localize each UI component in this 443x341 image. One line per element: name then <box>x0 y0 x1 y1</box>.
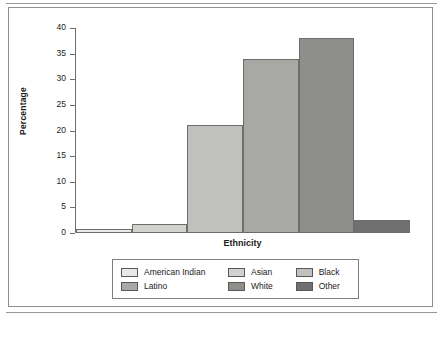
y-tick-mark <box>70 233 75 234</box>
legend-swatch-icon <box>121 282 138 291</box>
bar <box>132 224 188 233</box>
y-axis-title: Percentage <box>18 76 28 146</box>
y-tick-label: 0 <box>40 227 66 237</box>
legend-item-black: Black <box>296 267 352 277</box>
bar <box>187 125 243 233</box>
y-tick-label: 10 <box>40 176 66 186</box>
y-tick-label: 20 <box>40 125 66 135</box>
y-tick-label: 15 <box>40 150 66 160</box>
bar-chart: Percentage 0510152025303540 Ethnicity Am… <box>0 0 443 341</box>
legend-label: Asian <box>251 267 272 277</box>
bar <box>76 229 132 233</box>
legend-row: American Indian Asian Black <box>121 265 352 279</box>
legend-swatch-icon <box>121 268 138 277</box>
legend-label: Latino <box>144 281 167 291</box>
legend-swatch-icon <box>296 282 313 291</box>
legend-item-american-indian: American Indian <box>121 267 228 277</box>
legend-item-other: Other <box>296 281 352 291</box>
x-axis-title: Ethnicity <box>75 238 410 248</box>
legend-item-asian: Asian <box>228 267 296 277</box>
y-tick-label: 30 <box>40 73 66 83</box>
y-tick-label: 35 <box>40 48 66 58</box>
y-tick-label: 40 <box>40 22 66 32</box>
legend-label: Black <box>319 267 340 277</box>
bar <box>299 38 355 233</box>
legend-swatch-icon <box>296 268 313 277</box>
legend-label: American Indian <box>144 267 205 277</box>
y-tick-label: 25 <box>40 99 66 109</box>
legend-swatch-icon <box>228 282 245 291</box>
bar <box>243 59 299 233</box>
chart-legend: American Indian Asian Black Latino White <box>112 259 359 299</box>
legend-row: Latino White Other <box>121 279 352 293</box>
legend-item-latino: Latino <box>121 281 228 291</box>
bar <box>354 220 410 233</box>
bar-series <box>76 28 410 233</box>
legend-label: Other <box>319 281 340 291</box>
legend-swatch-icon <box>228 268 245 277</box>
legend-item-white: White <box>228 281 296 291</box>
y-tick-label: 5 <box>40 201 66 211</box>
legend-label: White <box>251 281 273 291</box>
